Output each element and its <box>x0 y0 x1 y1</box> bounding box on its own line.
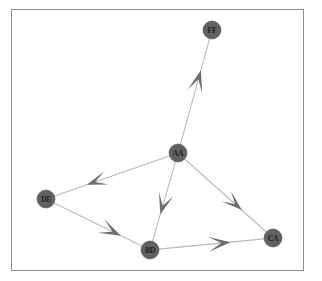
node-label: BD <box>145 246 156 255</box>
edges-layer <box>12 10 304 271</box>
graph-edge <box>152 162 175 242</box>
graph-node-bd[interactable]: BD <box>141 241 159 259</box>
graph-edge <box>185 159 267 232</box>
graph-node-ff[interactable]: FF <box>203 21 221 39</box>
graph-canvas[interactable]: FFAADEBDCA <box>0 0 322 281</box>
graph-edge <box>54 203 142 246</box>
node-label: FF <box>208 26 217 35</box>
edge-arrowhead-icon <box>98 219 121 235</box>
screenshot-root: FFAADEBDCA <box>0 0 322 281</box>
node-label: DE <box>41 195 51 204</box>
node-label: AA <box>173 149 184 158</box>
node-label: CA <box>268 234 279 243</box>
graph-node-de[interactable]: DE <box>37 190 55 208</box>
graph-edge <box>54 156 169 196</box>
graph-node-aa[interactable]: AA <box>169 144 187 162</box>
graph-edge <box>180 39 209 145</box>
graph-node-ca[interactable]: CA <box>264 229 282 247</box>
arrowheads-layer <box>87 70 242 251</box>
graph-edge <box>159 239 264 249</box>
nodes-layer: FFAADEBDCA <box>37 21 282 259</box>
